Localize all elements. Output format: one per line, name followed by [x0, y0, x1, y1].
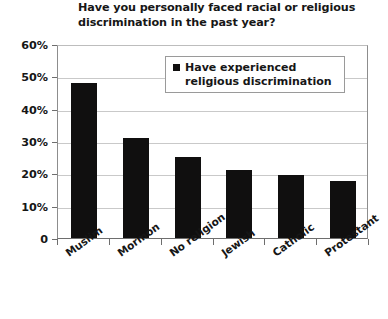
x-axis-tick-mark [213, 239, 214, 245]
y-axis-tick-label: 0 [0, 233, 48, 246]
y-axis-tick-mark [52, 142, 57, 143]
chart-legend: Have experienced religious discriminatio… [165, 56, 345, 93]
gridline [58, 208, 367, 209]
y-axis-tick-label: 50% [0, 71, 48, 84]
x-axis-tick-mark [57, 239, 58, 245]
y-axis-tick-mark [52, 77, 57, 78]
legend-item: Have experienced religious discriminatio… [173, 61, 338, 88]
legend-swatch-icon [173, 64, 180, 71]
x-axis-tick-mark [368, 239, 369, 245]
bar [71, 83, 97, 238]
x-axis-tick-mark [161, 239, 162, 245]
chart-title: Have you personally faced racial or reli… [78, 1, 378, 30]
y-axis-tick-mark [52, 110, 57, 111]
x-axis-tick-mark [264, 239, 265, 245]
y-axis-tick-label: 40% [0, 104, 48, 117]
legend-item-label: Have experienced religious discriminatio… [185, 61, 338, 88]
gridline [58, 143, 367, 144]
y-axis-tick-mark [52, 207, 57, 208]
y-axis-tick-label: 60% [0, 39, 48, 52]
y-axis-tick-label: 30% [0, 136, 48, 149]
x-axis-tick-mark [316, 239, 317, 245]
gridline [58, 175, 367, 176]
x-axis-tick-mark [109, 239, 110, 245]
y-axis-tick-mark [52, 45, 57, 46]
y-axis-tick-label: 10% [0, 201, 48, 214]
gridline [58, 111, 367, 112]
bar [123, 138, 149, 238]
y-axis-tick-mark [52, 174, 57, 175]
y-axis-tick-label: 20% [0, 168, 48, 181]
